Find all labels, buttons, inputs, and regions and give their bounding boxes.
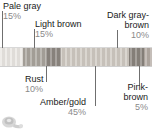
bar-segment-light-brown bbox=[23, 47, 46, 67]
callout-rust: Rust 10% bbox=[25, 74, 44, 94]
callout-label-pale-gray: Pale gray bbox=[3, 1, 41, 11]
callout-pale-gray: Pale gray 15% bbox=[3, 1, 41, 21]
leader-line-amber-gold bbox=[95, 66, 96, 106]
callout-label-pink-brown-line2: brown bbox=[123, 92, 148, 102]
callout-pink-brown: Pink- brown 5% bbox=[123, 82, 148, 112]
callout-light-brown: Light brown 15% bbox=[35, 19, 82, 39]
callout-label-amber-gold: Amber/gold bbox=[40, 97, 86, 107]
color-distribution-figure: Pale gray 15% Light brown 15% Dark gray-… bbox=[0, 0, 152, 133]
callout-percent-dark-gray-brown: 10% bbox=[107, 30, 149, 40]
callout-percent-light-brown: 15% bbox=[35, 29, 82, 39]
callout-percent-pink-brown: 5% bbox=[123, 102, 148, 112]
callout-label-pink-brown-line1: Pink- bbox=[123, 82, 148, 92]
bar-segment-rust bbox=[46, 47, 61, 67]
callout-percent-amber-gold: 45% bbox=[40, 107, 86, 117]
bar-segment-amber-gold bbox=[61, 47, 129, 67]
bar-segment-pink-brown bbox=[144, 47, 152, 67]
leader-line-rust bbox=[46, 66, 47, 82]
callout-label-dark-gray-brown-line2: brown bbox=[107, 20, 149, 30]
callout-dark-gray-brown: Dark gray- brown 10% bbox=[107, 10, 149, 40]
camera-watermark-icon bbox=[1, 114, 27, 131]
color-distribution-bar bbox=[0, 47, 152, 67]
callout-amber-gold: Amber/gold 45% bbox=[40, 97, 86, 117]
callout-percent-rust: 10% bbox=[25, 84, 44, 94]
bar-segment-pale-gray bbox=[0, 47, 23, 67]
callout-label-dark-gray-brown-line1: Dark gray- bbox=[107, 10, 149, 20]
callout-label-rust: Rust bbox=[25, 74, 44, 84]
bar-segment-dark-gray-brown bbox=[129, 47, 144, 67]
callout-label-light-brown: Light brown bbox=[35, 19, 82, 29]
